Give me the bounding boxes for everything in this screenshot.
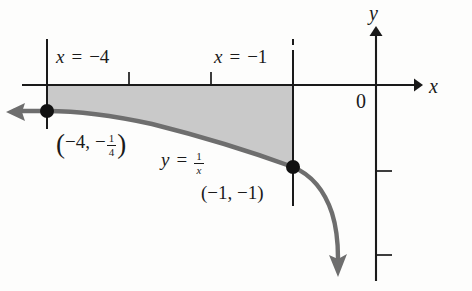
label-point-a-numerator: 1 <box>107 133 117 146</box>
label-function-numerator: 1 <box>194 151 204 164</box>
label-x-minus-1-value: −1 <box>247 46 267 67</box>
label-function-y-equals-one-over-x: y= 1 x <box>161 150 205 176</box>
label-function-var: y <box>161 149 169 170</box>
label-point-a-open-paren: ( <box>56 131 65 158</box>
label-point-a-fraction: 1 4 <box>107 133 117 158</box>
x-axis-label: x <box>429 76 438 96</box>
label-point-a-y-sign: − <box>95 131 106 152</box>
label-point-a-denominator: 4 <box>107 146 117 158</box>
label-function-fraction: 1 x <box>194 151 204 176</box>
label-x-minus-1-eq: = <box>229 46 240 67</box>
label-point-a-close-paren: ) <box>117 131 126 158</box>
label-function-denominator: x <box>194 164 204 176</box>
label-point-minus-4: (−4,− 1 4 ) <box>56 131 126 158</box>
label-x-minus-4-value: −4 <box>89 46 109 67</box>
math-figure: x=−4 x=−1 (−4,− 1 4 ) y= 1 x (−1, −1) x … <box>0 0 472 291</box>
x-axis-arrowhead <box>414 79 423 92</box>
label-point-a-x: −4, <box>65 131 90 152</box>
label-line-x-minus-4: x=−4 <box>56 47 109 66</box>
y-axis-arrowhead <box>370 26 383 36</box>
origin-label: 0 <box>356 91 366 111</box>
point-marker-minus-4 <box>40 104 54 118</box>
label-x-minus-4-var: x <box>56 46 64 67</box>
label-line-x-minus-1: x=−1 <box>214 47 267 66</box>
label-point-minus-1: (−1, −1) <box>201 183 264 202</box>
y-axis-label: y <box>369 3 378 23</box>
label-x-minus-1-var: x <box>214 46 222 67</box>
label-x-minus-4-eq: = <box>71 46 82 67</box>
label-function-eq: = <box>176 149 187 170</box>
point-marker-minus-1 <box>286 160 300 174</box>
